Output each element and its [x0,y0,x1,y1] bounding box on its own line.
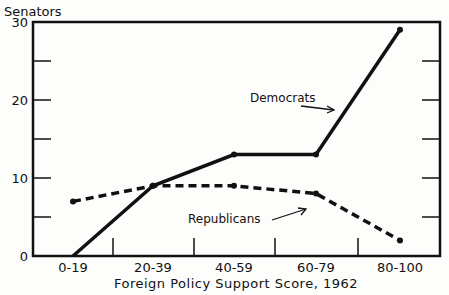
x-tick-label: 0-19 [58,260,88,275]
x-tick-label: 60-79 [297,260,335,275]
y-tick-label: 0 [20,249,28,264]
y-tick-label: 20 [11,93,28,108]
data-point [313,191,319,197]
x-axis-title: Foreign Policy Support Score, 1962 [114,276,358,291]
data-point [231,183,237,189]
x-tick-label: 20-39 [134,260,172,275]
data-point [70,198,76,204]
y-tick-label: 30 [11,15,28,30]
data-point [397,237,403,243]
data-point [150,183,156,189]
x-tick-label: 40-59 [215,260,253,275]
y-tick-label: 10 [11,171,28,186]
axis-labels: Senators01020300-1920-3940-5960-7980-100… [4,4,423,291]
data-point [397,27,403,33]
annotation-democrats: Democrats [250,91,316,105]
data-point [231,152,237,158]
x-tick-label: 80-100 [377,260,423,275]
line-chart: Senators01020300-1920-3940-5960-7980-100… [0,0,449,295]
annotation-republicans: Republicans [188,212,261,226]
data-point [313,152,319,158]
